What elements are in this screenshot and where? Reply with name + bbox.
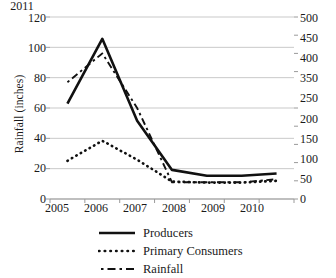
legend: Producers Primary Consumers Rainfall: [0, 224, 336, 278]
series-line-producers: [67, 39, 276, 176]
legend-label-rainfall: Rainfall: [143, 263, 183, 276]
legend-swatch-solid-icon: [98, 227, 136, 239]
legend-swatch-dotted-icon: [98, 245, 136, 257]
gridlines: [50, 17, 294, 199]
legend-item-producers[interactable]: Producers: [0, 224, 336, 242]
series-line-rainfall: [67, 53, 276, 182]
legend-label-primary-consumers: Primary Consumers: [143, 245, 243, 258]
legend-item-rainfall[interactable]: Rainfall: [0, 260, 336, 278]
legend-item-primary-consumers[interactable]: Primary Consumers: [0, 242, 336, 260]
data-series-layer: [67, 39, 276, 183]
legend-label-producers: Producers: [143, 227, 193, 240]
legend-swatch-dashed-icon: [98, 263, 136, 275]
rainfall-biomass-line-chart: Rainfall (inches) Biomass 120 100 80 60 …: [0, 0, 336, 278]
